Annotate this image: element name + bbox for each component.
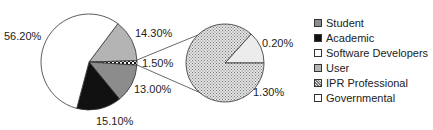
legend-swatch-icon bbox=[314, 49, 322, 57]
legend: Student Academic Software Developers Use… bbox=[314, 15, 428, 105]
label-governmental: 0.20% bbox=[262, 37, 293, 49]
label-student: 13.00% bbox=[134, 83, 171, 95]
main-pie bbox=[41, 14, 137, 110]
legend-item-software-developers: Software Developers bbox=[314, 45, 428, 60]
legend-label: Academic bbox=[326, 32, 374, 44]
legend-swatch-icon bbox=[314, 79, 322, 87]
legend-label: Student bbox=[326, 17, 364, 29]
legend-label: User bbox=[326, 62, 349, 74]
legend-swatch-icon bbox=[314, 19, 322, 27]
legend-swatch-icon bbox=[314, 34, 322, 42]
legend-label: Governmental bbox=[326, 92, 395, 104]
legend-item-ipr-professional: IPR Professional bbox=[314, 75, 428, 90]
legend-item-governmental: Governmental bbox=[314, 90, 428, 105]
legend-item-student: Student bbox=[314, 15, 428, 30]
label-academic: 15.10% bbox=[96, 115, 133, 127]
legend-swatch-icon bbox=[314, 94, 322, 102]
label-user: 14.30% bbox=[135, 27, 172, 39]
label-software-developers: 56.20% bbox=[4, 30, 41, 42]
label-ipr-group: 1.50% bbox=[142, 57, 173, 69]
legend-item-user: User bbox=[314, 60, 428, 75]
legend-swatch-icon bbox=[314, 64, 322, 72]
label-ipr-professional: 1.30% bbox=[253, 86, 284, 98]
legend-item-academic: Academic bbox=[314, 30, 428, 45]
legend-label: Software Developers bbox=[326, 47, 428, 59]
legend-label: IPR Professional bbox=[326, 77, 408, 89]
